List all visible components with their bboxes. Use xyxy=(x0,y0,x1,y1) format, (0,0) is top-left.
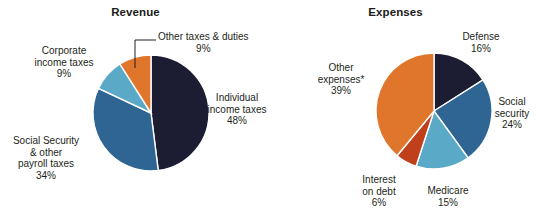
expenses-chart-panel: Expenses Defense 16% Social security 24%… xyxy=(276,0,551,223)
expenses-label-defense-line1: Defense xyxy=(448,31,514,43)
expenses-label-interest-value: 6% xyxy=(348,197,410,209)
expenses-label-social-security-line1: Social xyxy=(482,96,542,108)
expenses-label-social-security-value: 24% xyxy=(482,119,542,131)
expenses-label-other-expenses: Other expenses* 39% xyxy=(306,62,376,97)
expenses-label-other-value: 39% xyxy=(306,85,376,97)
revenue-label-other-taxes-value: 9% xyxy=(158,43,249,55)
revenue-label-corporate-line1: Corporate xyxy=(24,45,104,57)
expenses-label-other-line1: Other xyxy=(306,62,376,74)
revenue-label-social-security-payroll-taxes: Social Security & other payroll taxes 34… xyxy=(1,135,91,181)
expenses-label-medicare: Medicare 15% xyxy=(413,185,483,208)
revenue-label-other-taxes-line1: Other taxes & duties xyxy=(158,31,249,43)
revenue-label-corporate-income-taxes: Corporate income taxes 9% xyxy=(24,45,104,80)
revenue-label-social-security-value: 34% xyxy=(1,170,91,182)
revenue-label-social-security-line1: Social Security xyxy=(1,135,91,147)
revenue-label-individual-income-taxes: Individual income taxes 48% xyxy=(198,92,276,127)
revenue-label-individual-line1: Individual xyxy=(198,92,276,104)
revenue-chart-panel: Revenue Other taxes & duties 9% Corporat… xyxy=(0,0,275,223)
expenses-label-defense-value: 16% xyxy=(448,43,514,55)
revenue-label-individual-value: 48% xyxy=(198,115,276,127)
revenue-label-corporate-line2: income taxes xyxy=(24,57,104,69)
expenses-label-defense: Defense 16% xyxy=(448,31,514,54)
pie-charts-figure: Revenue Other taxes & duties 9% Corporat… xyxy=(0,0,551,223)
revenue-label-other-taxes-and-duties: Other taxes & duties 9% xyxy=(158,31,249,54)
expenses-label-social-security: Social security 24% xyxy=(482,96,542,131)
expenses-label-interest-on-debt: Interest on debt 6% xyxy=(348,174,410,209)
revenue-label-corporate-value: 9% xyxy=(24,68,104,80)
expenses-label-medicare-value: 15% xyxy=(413,197,483,209)
revenue-label-social-security-line2: & other xyxy=(1,147,91,159)
expenses-label-interest-line2: on debt xyxy=(348,186,410,198)
expenses-label-interest-line1: Interest xyxy=(348,174,410,186)
expenses-label-other-line2: expenses* xyxy=(306,74,376,86)
expenses-label-social-security-line2: security xyxy=(482,108,542,120)
expenses-label-medicare-line1: Medicare xyxy=(413,185,483,197)
revenue-label-social-security-line3: payroll taxes xyxy=(1,158,91,170)
revenue-label-individual-line2: income taxes xyxy=(198,104,276,116)
